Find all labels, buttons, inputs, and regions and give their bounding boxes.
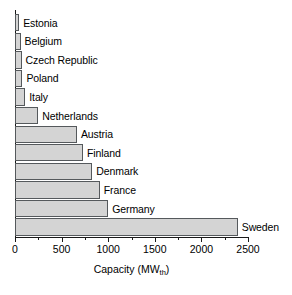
x-tick-major-0: [15, 237, 16, 242]
x-tick-minor-2250: [225, 237, 226, 240]
bar-row: Germany: [0, 200, 292, 219]
bar-germany: [15, 200, 108, 217]
x-axis: 05001000150020002500 Capacity (MWth): [0, 237, 292, 295]
bar-chart: EstoniaBelgiumCzech RepublicPolandItalyN…: [0, 0, 292, 295]
x-axis-title-base: Capacity (MW: [94, 263, 160, 275]
x-tick-label-2500: 2500: [236, 244, 259, 255]
bar-france: [15, 181, 100, 198]
bar-row: Denmark: [0, 163, 292, 182]
bar-row: Poland: [0, 70, 292, 89]
x-tick-label-2000: 2000: [190, 244, 213, 255]
x-tick-minor-1250: [132, 237, 133, 240]
x-tick-major-2000: [201, 237, 202, 242]
bar-estonia: [15, 14, 19, 31]
x-tick-label-500: 500: [53, 244, 71, 255]
x-tick-major-2500: [248, 237, 249, 242]
bar-denmark: [15, 163, 92, 180]
bar-label-czech-republic: Czech Republic: [26, 55, 98, 66]
x-tick-minor-750: [85, 237, 86, 240]
bar-sweden: [15, 218, 238, 235]
bar-label-estonia: Estonia: [23, 18, 57, 29]
bar-row: Finland: [0, 144, 292, 163]
x-tick-label-1000: 1000: [97, 244, 120, 255]
bar-poland: [15, 70, 22, 87]
bar-netherlands: [15, 107, 38, 124]
x-axis-title-subscript: th: [160, 268, 166, 277]
x-tick-minor-1750: [178, 237, 179, 240]
bar-label-finland: Finland: [87, 148, 121, 159]
bar-row: Italy: [0, 88, 292, 107]
bar-label-austria: Austria: [81, 129, 113, 140]
bar-row: France: [0, 181, 292, 200]
bar-label-sweden: Sweden: [242, 222, 279, 233]
bar-row: Austria: [0, 126, 292, 145]
bar-label-denmark: Denmark: [96, 166, 138, 177]
x-axis-title-close: ): [166, 263, 170, 275]
bar-row: Estonia: [0, 14, 292, 33]
x-tick-minor-250: [38, 237, 39, 240]
bar-austria: [15, 126, 77, 143]
bar-label-netherlands: Netherlands: [42, 111, 98, 122]
bar-belgium: [15, 33, 21, 50]
x-tick-label-0: 0: [12, 244, 18, 255]
x-tick-major-500: [62, 237, 63, 242]
x-axis-title: Capacity (MWth): [0, 263, 263, 275]
plot-area: EstoniaBelgiumCzech RepublicPolandItalyN…: [0, 0, 292, 250]
bar-row: Belgium: [0, 33, 292, 52]
bar-czech-republic: [15, 51, 22, 68]
bar-label-poland: Poland: [26, 73, 58, 84]
x-tick-major-1500: [155, 237, 156, 242]
bar-italy: [15, 88, 25, 105]
x-tick-major-1000: [108, 237, 109, 242]
bar-label-belgium: Belgium: [25, 36, 62, 47]
bar-label-germany: Germany: [112, 204, 154, 215]
bar-label-france: France: [104, 185, 136, 196]
bar-row: Netherlands: [0, 107, 292, 126]
bar-finland: [15, 144, 83, 161]
bar-label-italy: Italy: [29, 92, 48, 103]
bar-row: Czech Republic: [0, 51, 292, 70]
x-tick-label-1500: 1500: [143, 244, 166, 255]
bar-row: Sweden: [0, 218, 292, 237]
